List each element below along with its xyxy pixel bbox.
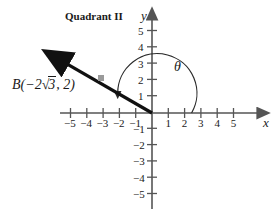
angle-arc (118, 54, 197, 113)
y-tick-label-neg4: −4 (133, 173, 145, 184)
coordinate-plane-figure: Quadrant II y x θ B(−2√3, 2) −5 −4 −3 −2… (0, 0, 280, 223)
y-tick-label-neg5: −5 (133, 189, 145, 200)
point-b-label: B(−2√3, 2) (12, 78, 75, 92)
quadrant-title: Quadrant II (65, 11, 123, 22)
y-tick-label-3: 3 (138, 59, 144, 70)
y-tick-label-neg3: −3 (133, 156, 145, 167)
x-tick-label-5: 5 (231, 118, 237, 129)
y-axis-label: y (141, 9, 147, 22)
x-axis-label: x (263, 116, 269, 129)
x-tick-label-neg5: −5 (64, 118, 76, 129)
x-tick-label-neg2: −2 (113, 118, 125, 129)
point-b-label-suffix: , 2) (56, 77, 75, 92)
y-tick-label-neg1: −1 (133, 124, 145, 135)
y-tick-label-5: 5 (138, 26, 144, 37)
x-tick-label-neg4: −4 (80, 118, 92, 129)
x-tick-label-1: 1 (166, 118, 172, 129)
y-axis (147, 19, 157, 209)
x-tick-label-3: 3 (198, 118, 204, 129)
theta-label: θ (174, 60, 181, 74)
terminal-side-ray (66, 63, 152, 113)
y-tick-label-2: 2 (138, 75, 144, 86)
x-tick-label-2: 2 (182, 118, 188, 129)
x-tick-label-neg3: −3 (97, 118, 109, 129)
y-tick-label-4: 4 (138, 42, 144, 53)
point-b-marker (98, 75, 104, 81)
point-b-label-prefix: B(−2 (12, 77, 42, 92)
y-tick-label-1: 1 (138, 91, 144, 102)
y-tick-label-neg2: −2 (133, 140, 145, 151)
x-tick-label-4: 4 (214, 118, 220, 129)
